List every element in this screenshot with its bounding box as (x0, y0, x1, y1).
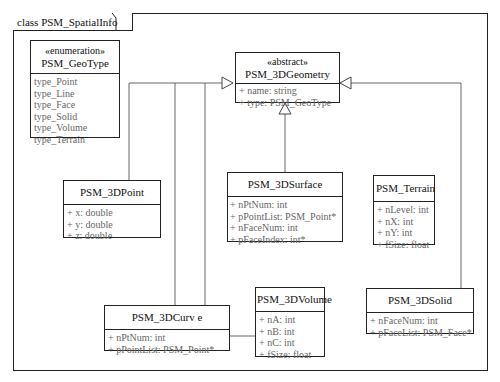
attribute: + fSize: float (259, 349, 321, 361)
attribute: + name: string (239, 85, 336, 97)
enum-literal: type_Face (34, 99, 116, 111)
class-attributes: + name: string + type: PSM_GeoType (236, 84, 339, 111)
class-name: PSM_3DSolid (369, 294, 471, 307)
class-attributes: + nLevel: int + nX: int + nY: int + fSiz… (374, 202, 434, 253)
attribute: + pPointList: PSM_Point* (230, 211, 339, 223)
attribute: + z: double (67, 230, 157, 242)
class-attributes: + x: double + y: double + z: double (64, 205, 160, 245)
attribute: + pPointList: PSM_Point* (108, 344, 226, 356)
class-name: PSM_3DVolume (257, 293, 323, 306)
enum-literal: type_Terrain (34, 134, 116, 146)
attribute: + nC: int (259, 337, 321, 349)
attribute: + nPtNum: int (108, 332, 226, 344)
class-name: PSM_3DGeometry (238, 68, 337, 81)
attribute: + x: double (67, 207, 157, 219)
class-header: PSM_3DCurv e (105, 306, 229, 330)
attribute: + y: double (67, 219, 157, 231)
attribute: + nFaceNum: int (230, 222, 339, 234)
attribute: + pFaceIndex: int* (230, 234, 339, 246)
enum-literal: type_Solid (34, 111, 116, 123)
class-psm-3dsurface[interactable]: PSM_3DSurface + nPtNum: int + pPointList… (227, 172, 343, 242)
attribute: + nY: int (377, 227, 431, 239)
enum-literal: type_Line (34, 88, 116, 100)
class-psm-3dsolid[interactable]: PSM_3DSolid + nFaceNum: int + pFaceList:… (366, 288, 474, 334)
attribute: + nX: int (377, 216, 431, 228)
class-attributes: + nA: int + nB: int + nC: int + fSize: f… (256, 312, 324, 363)
attribute: + nB: int (259, 326, 321, 338)
stereotype-label: «abstract» (238, 55, 337, 68)
class-header: PSM_3DPoint (64, 181, 160, 205)
stereotype-label: «enumeration» (33, 44, 117, 57)
class-header: PSM_3DVolume (256, 288, 324, 312)
class-attributes: + nFaceNum: int + pFaceList: PSM_Face* (367, 313, 473, 341)
class-name: PSM_GeoType (33, 57, 117, 70)
class-name: PSM_Terrain (376, 182, 432, 195)
class-psm-3dcurve[interactable]: PSM_3DCurv e + nPtNum: int + pPointList:… (104, 305, 230, 351)
enum-literal: type_Volume (34, 122, 116, 134)
attribute: + pFaceList: PSM_Face* (370, 327, 470, 339)
class-psm-terrain[interactable]: PSM_Terrain + nLevel: int + nX: int + nY… (373, 175, 435, 245)
class-psm-geotype[interactable]: «enumeration» PSM_GeoType type_Point typ… (30, 40, 120, 138)
enum-literal: type_Point (34, 76, 116, 88)
attribute: + nLevel: int (377, 204, 431, 216)
class-psm-3dvolume[interactable]: PSM_3DVolume + nA: int + nB: int + nC: i… (255, 287, 325, 357)
class-psm-3dpoint[interactable]: PSM_3DPoint + x: double + y: double + z:… (63, 180, 161, 238)
class-attributes: + nPtNum: int + pPointList: PSM_Point* (105, 330, 229, 358)
class-attributes: + nPtNum: int + pPointList: PSM_Point* +… (228, 197, 342, 248)
attribute: + nPtNum: int (230, 199, 339, 211)
class-name: PSM_3DSurface (230, 178, 340, 191)
class-name: PSM_3DCurv e (107, 311, 227, 324)
enum-literals: type_Point type_Line type_Face type_Soli… (31, 74, 119, 148)
class-header: PSM_3DSolid (367, 289, 473, 313)
attribute: + nA: int (259, 314, 321, 326)
attribute: + nFaceNum: int (370, 315, 470, 327)
attribute: + type: PSM_GeoType (239, 97, 336, 109)
class-header: PSM_Terrain (374, 176, 434, 202)
class-name: PSM_3DPoint (66, 186, 158, 199)
class-header: «abstract» PSM_3DGeometry (236, 53, 339, 84)
class-header: «enumeration» PSM_GeoType (31, 41, 119, 74)
class-header: PSM_3DSurface (228, 173, 342, 197)
frame-title: class PSM_SpatialInfo (13, 13, 133, 31)
attribute: + fSize: float (377, 239, 431, 251)
class-psm-3dgeometry[interactable]: «abstract» PSM_3DGeometry + name: string… (235, 52, 340, 103)
